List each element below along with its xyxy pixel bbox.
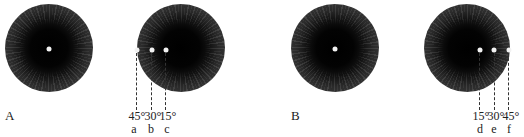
- dashed-line-c: [165, 53, 166, 110]
- central-light-reflex-dot: [47, 47, 52, 52]
- angle-label-a: 45°: [129, 110, 146, 122]
- marker-dot-f: [507, 48, 512, 53]
- letter-label-d: d: [477, 123, 483, 135]
- letter-label-e: e: [491, 123, 496, 135]
- marker-dot-e: [492, 48, 497, 53]
- marker-dot-b: [150, 48, 155, 53]
- marker-dot-c: [164, 48, 169, 53]
- central-light-reflex-dot: [333, 47, 338, 52]
- letter-label-b: b: [148, 123, 154, 135]
- dashed-line-d: [479, 53, 480, 110]
- marker-dot-a: [135, 48, 140, 53]
- dashed-line-a: [136, 53, 137, 110]
- panel-label-b: B: [291, 109, 300, 122]
- angle-label-f: 45°: [503, 110, 520, 122]
- angle-label-c: 15°: [160, 110, 177, 122]
- panel-label-a: A: [5, 109, 14, 122]
- dashed-line-b: [151, 53, 152, 110]
- iris-rays: [424, 4, 510, 92]
- letter-label-c: c: [164, 123, 169, 135]
- dashed-line-e: [494, 53, 495, 110]
- eye-b-right: [424, 4, 510, 92]
- letter-label-f: f: [507, 123, 511, 135]
- marker-dot-d: [478, 48, 483, 53]
- letter-label-a: a: [131, 123, 136, 135]
- dashed-line-f: [508, 53, 509, 110]
